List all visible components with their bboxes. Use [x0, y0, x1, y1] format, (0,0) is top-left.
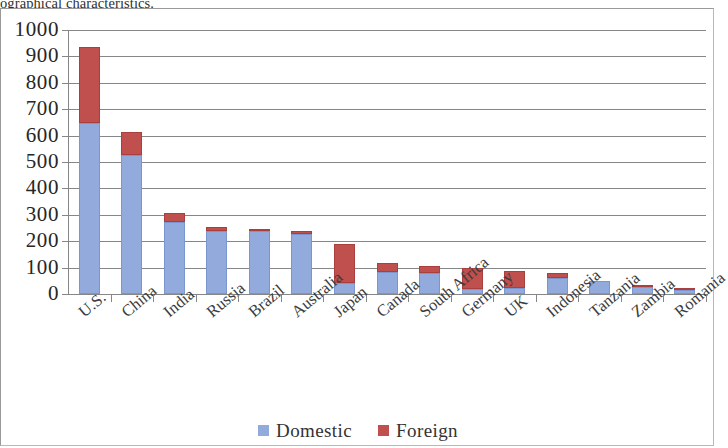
bar-segment-foreign[interactable]: [164, 213, 185, 223]
bar-column[interactable]: [674, 30, 695, 294]
bar-column[interactable]: [164, 30, 185, 294]
bar-column[interactable]: [206, 30, 227, 294]
bar-column[interactable]: [419, 30, 440, 294]
legend-swatch-domestic: [258, 425, 269, 436]
bar-segment-foreign[interactable]: [79, 47, 100, 123]
bar-column[interactable]: [377, 30, 398, 294]
y-axis-tick: [62, 162, 69, 163]
legend-swatch-foreign: [378, 425, 389, 436]
bar-column[interactable]: [334, 30, 355, 294]
bar-column[interactable]: [504, 30, 525, 294]
x-axis-tick: [196, 295, 197, 302]
x-axis-tick: [323, 295, 324, 302]
bar-segment-foreign[interactable]: [291, 231, 312, 233]
x-axis-tick: [536, 295, 537, 302]
legend-label: Foreign: [396, 421, 458, 440]
bar-segment-foreign[interactable]: [377, 263, 398, 271]
bar-segment-foreign[interactable]: [419, 266, 440, 273]
y-axis-tick: [62, 188, 69, 189]
bar-segment-domestic[interactable]: [164, 222, 185, 294]
y-axis-tick-label: 300: [1, 204, 59, 225]
y-axis-tick-label: 800: [1, 72, 59, 93]
bar-segment-domestic[interactable]: [291, 234, 312, 294]
bar-column[interactable]: [121, 30, 142, 294]
y-axis-tick: [62, 30, 69, 31]
y-axis-tick-label: 100: [1, 257, 59, 278]
legend-label: Domestic: [276, 421, 352, 440]
plot-area: [68, 30, 706, 294]
x-axis-tick: [706, 295, 707, 302]
x-axis-tick: [408, 295, 409, 302]
legend-item[interactable]: Domestic: [258, 421, 352, 440]
x-axis-tick: [281, 295, 282, 302]
y-axis-tick: [62, 294, 69, 295]
x-axis-tick: [366, 295, 367, 302]
bar-segment-domestic[interactable]: [206, 231, 227, 294]
bar-segment-domestic[interactable]: [249, 231, 270, 294]
y-axis-tick: [62, 241, 69, 242]
x-axis-label-uk: UK: [502, 293, 531, 321]
bar-segment-domestic[interactable]: [79, 123, 100, 294]
y-axis-tick-label: 500: [1, 151, 59, 172]
y-axis-tick: [62, 109, 69, 110]
y-axis-tick: [62, 136, 69, 137]
y-axis-tick: [62, 268, 69, 269]
y-axis-tick-label: 200: [1, 230, 59, 251]
x-axis-tick: [493, 295, 494, 302]
bar-segment-foreign[interactable]: [249, 229, 270, 231]
bar-column[interactable]: [249, 30, 270, 294]
bar-column[interactable]: [79, 30, 100, 294]
x-axis-tick: [153, 295, 154, 302]
y-axis-tick-label: 700: [1, 98, 59, 119]
chart-frame: 10009008007006005004003002001000 U.S.Chi…: [0, 8, 714, 446]
x-axis-tick: [578, 295, 579, 302]
bar-column[interactable]: [291, 30, 312, 294]
bar-segment-domestic[interactable]: [121, 155, 142, 294]
bar-segment-foreign[interactable]: [547, 273, 568, 278]
bar-column[interactable]: [632, 30, 653, 294]
y-axis-tick-label: 600: [1, 125, 59, 146]
bar-segment-foreign[interactable]: [206, 227, 227, 231]
legend-item[interactable]: Foreign: [378, 421, 458, 440]
x-axis-tick: [111, 295, 112, 302]
y-axis-tick-label: 400: [1, 177, 59, 198]
y-axis-tick-label: 0: [1, 283, 59, 304]
chart-legend: DomesticForeign: [1, 421, 715, 440]
bar-column[interactable]: [547, 30, 568, 294]
y-axis-tick-label: 900: [1, 45, 59, 66]
x-axis-tick: [663, 295, 664, 302]
bar-segment-foreign[interactable]: [121, 132, 142, 155]
y-axis-tick: [62, 83, 69, 84]
bar-column[interactable]: [589, 30, 610, 294]
x-axis-tick: [621, 295, 622, 302]
y-axis-tick-labels: 10009008007006005004003002001000: [1, 9, 59, 448]
y-axis-tick: [62, 56, 69, 57]
x-axis-tick: [451, 295, 452, 302]
y-axis-tick-label: 1000: [1, 19, 59, 40]
y-axis-tick: [62, 215, 69, 216]
x-axis-tick: [238, 295, 239, 302]
